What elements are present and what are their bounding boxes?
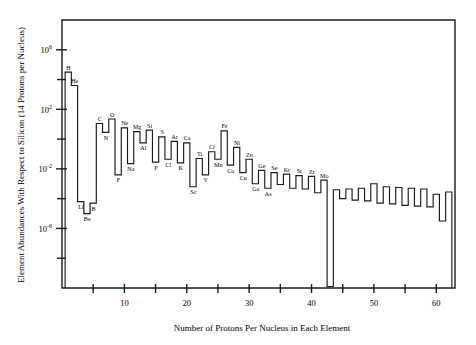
element-label-ti: Ti [197, 151, 203, 157]
x-tick-label: 60 [432, 298, 441, 308]
element-label-h: H [66, 65, 71, 71]
element-label-sc: Sc [190, 189, 196, 195]
element-label-sr: Sr [297, 168, 302, 174]
element-label-ca: Ca [184, 135, 191, 141]
element-label-cl: Cl [165, 162, 171, 168]
x-tick-label: 40 [307, 298, 316, 308]
element-label-ar: Ar [171, 134, 177, 140]
element-label-as: As [265, 191, 272, 197]
x-tick-label: 30 [245, 298, 254, 308]
x-tick-label: 20 [183, 298, 192, 308]
element-label-o: O [110, 112, 115, 118]
element-label-n: N [104, 135, 109, 141]
element-label-zr: Zr [309, 169, 315, 175]
element-label-fe: Fe [221, 123, 227, 129]
element-label-he: He [71, 78, 78, 84]
element-label-ga: Ga [252, 186, 259, 192]
element-label-ne: Ne [121, 120, 128, 126]
element-label-cu: Cu [240, 175, 247, 181]
x-tick-label: 10 [120, 298, 129, 308]
element-label-cr: Cr [209, 144, 215, 150]
abundance-chart: 10610210-210-6 102030405060 HHeLiBeBCNOF… [0, 0, 476, 345]
x-axis-title: Number of Protons Per Nucleus in Each El… [174, 323, 351, 333]
y-axis-title: Element Abundances With Respect to Silic… [16, 27, 26, 283]
element-label-al: Al [140, 145, 146, 151]
element-label-na: Na [127, 166, 134, 172]
element-label-c: C [98, 116, 102, 122]
element-label-ni: Ni [234, 140, 240, 146]
element-label-b: B [91, 206, 95, 212]
element-label-k: K [179, 165, 184, 171]
element-label-ge: Ge [258, 163, 265, 169]
element-label-v: V [204, 177, 209, 183]
element-label-se: Se [271, 165, 277, 171]
element-label-mg: Mg [133, 124, 141, 130]
element-label-kr: Kr [284, 167, 290, 173]
element-label-mn: Mn [214, 162, 222, 168]
element-label-si: Si [147, 123, 152, 129]
element-label-co: Co [227, 168, 234, 174]
element-label-be: Be [84, 216, 91, 222]
element-label-p: P [154, 165, 158, 171]
x-tick-label: 50 [370, 298, 379, 308]
element-label-mo: Mo [320, 173, 328, 179]
element-label-li: Li [78, 204, 84, 210]
element-label-zn: Zn [246, 152, 253, 158]
chart-background [0, 0, 476, 345]
